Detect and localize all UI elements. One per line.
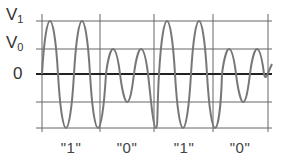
y-label-v0: V0: [6, 34, 23, 53]
y-label-zero: 0: [13, 65, 22, 82]
y-label-v0-sub: 0: [17, 41, 23, 53]
y-label-v0-main: V: [6, 33, 17, 52]
y-label-v1-main: V: [6, 5, 17, 24]
bit-label-3: "1": [159, 139, 209, 156]
y-label-v1: V1: [6, 6, 23, 25]
y-label-v1-sub: 1: [17, 13, 23, 25]
bit-label-2: "0": [102, 139, 152, 156]
waveform-diagram: [0, 0, 287, 159]
y-label-zero-main: 0: [13, 64, 22, 83]
bit-label-4: "0": [215, 139, 265, 156]
bit-label-1: "1": [46, 139, 96, 156]
